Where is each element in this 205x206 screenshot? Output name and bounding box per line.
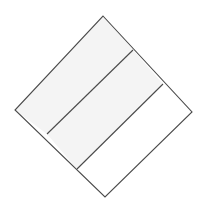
figure-canvas: Rotated square partitioned into three pa… — [0, 0, 205, 206]
diagram-svg: Rotated square partitioned into three pa… — [0, 0, 205, 206]
